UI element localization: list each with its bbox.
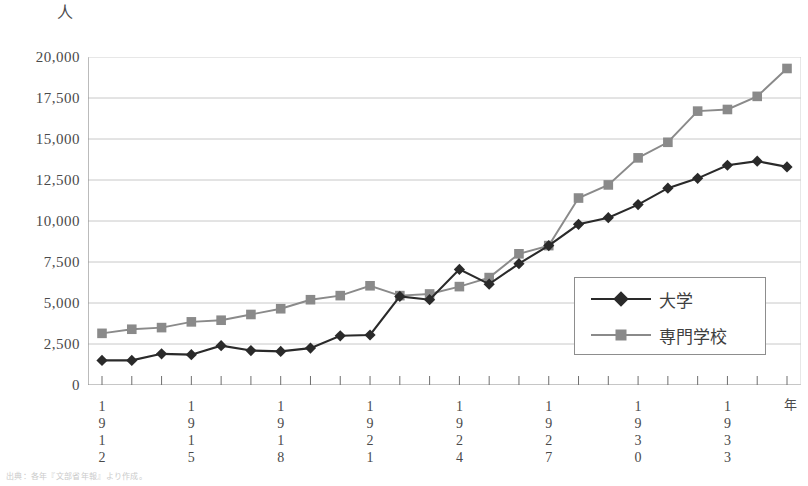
data-point[interactable] <box>335 330 346 341</box>
y-tick-label: 2,500 <box>44 336 80 353</box>
data-point[interactable] <box>157 323 167 333</box>
data-point[interactable] <box>276 304 286 314</box>
y-tick-label: 0 <box>72 377 80 394</box>
data-point[interactable] <box>632 199 643 210</box>
x-tick-label: 1924 <box>451 398 467 466</box>
data-point[interactable] <box>781 161 792 172</box>
x-axis-ticks <box>102 376 787 385</box>
data-point[interactable] <box>633 153 643 163</box>
data-point[interactable] <box>722 160 733 171</box>
legend-swatch-diamond-icon <box>591 290 651 308</box>
data-point[interactable] <box>275 346 286 357</box>
legend-item-senmongakko[interactable]: 専門学校 <box>575 318 765 352</box>
data-point[interactable] <box>752 92 762 102</box>
data-point[interactable] <box>663 137 673 147</box>
y-axis-tick-labels: 20,00017,50015,00012,50010,0007,5005,000… <box>0 0 80 486</box>
data-point[interactable] <box>603 212 614 223</box>
data-point[interactable] <box>692 173 703 184</box>
data-point[interactable] <box>246 310 256 320</box>
data-point[interactable] <box>662 183 673 194</box>
x-axis-unit-label: 年 <box>784 398 797 411</box>
data-point[interactable] <box>514 249 524 259</box>
legend-swatch-square-icon <box>591 326 651 344</box>
data-point[interactable] <box>186 349 197 360</box>
y-tick-label: 15,000 <box>36 131 80 148</box>
x-tick-label: 1930 <box>630 398 646 466</box>
chart-legend: 大学 専門学校 <box>574 277 766 355</box>
data-point[interactable] <box>97 329 107 339</box>
data-point[interactable] <box>156 348 167 359</box>
data-point[interactable] <box>365 281 375 291</box>
x-tick-label: 1915 <box>183 398 199 466</box>
data-point[interactable] <box>693 106 703 116</box>
x-tick-label: 1927 <box>541 398 557 466</box>
data-point[interactable] <box>782 64 792 74</box>
chart-canvas: 人 年 20,00017,50015,00012,50010,0007,5005… <box>0 0 808 486</box>
y-tick-label: 10,000 <box>36 213 80 230</box>
x-tick-label: 1912 <box>94 398 110 466</box>
data-point[interactable] <box>604 180 614 190</box>
y-tick-label: 20,000 <box>36 49 80 66</box>
data-point[interactable] <box>187 317 197 327</box>
y-tick-label: 12,500 <box>36 172 80 189</box>
data-point[interactable] <box>245 345 256 356</box>
x-tick-label: 1918 <box>273 398 289 466</box>
legend-item-daigaku[interactable]: 大学 <box>575 282 765 316</box>
x-tick-label: 1921 <box>362 398 378 466</box>
data-point[interactable] <box>306 295 316 305</box>
data-point[interactable] <box>723 105 733 115</box>
data-point[interactable] <box>455 282 465 292</box>
y-tick-label: 17,500 <box>36 90 80 107</box>
data-point[interactable] <box>335 291 345 301</box>
data-point[interactable] <box>216 315 226 325</box>
data-point[interactable] <box>216 340 227 351</box>
data-point[interactable] <box>574 193 584 203</box>
legend-label-senmongakko: 専門学校 <box>659 323 727 348</box>
y-tick-label: 5,000 <box>44 295 80 312</box>
legend-label-daigaku: 大学 <box>659 287 693 312</box>
x-tick-label: 1933 <box>719 398 735 466</box>
data-point[interactable] <box>752 156 763 167</box>
data-point[interactable] <box>126 355 137 366</box>
data-point[interactable] <box>96 355 107 366</box>
source-caption: 出典：各年『文部省年報』より作成。 <box>6 470 147 481</box>
data-point[interactable] <box>127 324 137 334</box>
y-tick-label: 7,500 <box>44 254 80 271</box>
